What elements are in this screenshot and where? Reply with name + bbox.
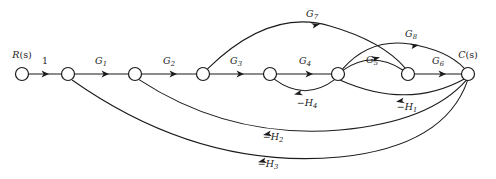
node-output-cs[interactable] (462, 68, 475, 81)
edge-label-h1: −H1 (397, 101, 418, 114)
edge-feedback-h3 (72, 80, 467, 163)
edge-forward-g6 (415, 71, 462, 78)
node-1[interactable] (62, 68, 75, 81)
edge-feedforward-g8 (343, 43, 465, 69)
edge-label-gain-1: 1 (42, 55, 48, 66)
edge-forward-g3 (210, 71, 264, 78)
edge-feedback-h2 (139, 80, 466, 136)
signal-flow-graph-canvas: R(s) C(s) 1 G1 G2 G3 G4 G5 G6 G7 G8 −H4 … (0, 0, 496, 179)
edge-label-g5: G5 (366, 54, 378, 67)
edge-label-g6: G6 (432, 55, 445, 68)
node-6[interactable] (402, 68, 415, 81)
edge-label-h4: −H4 (297, 97, 318, 110)
edge-forward-g1 (75, 71, 129, 78)
node-2[interactable] (129, 68, 142, 81)
edge-label-h2: −H2 (263, 131, 284, 144)
edge-label-h3: −H3 (258, 158, 279, 171)
edge-feedback-h4 (274, 79, 334, 95)
node-4[interactable] (264, 68, 277, 81)
label-layer: R(s) C(s) 1 G1 G2 G3 G4 G5 G6 G7 G8 −H4 … (11, 8, 478, 171)
signal-flow-graph-figure: R(s) C(s) 1 G1 G2 G3 G4 G5 G6 G7 G8 −H4 … (0, 0, 496, 179)
edge-forward-g2 (142, 71, 197, 78)
node-input-rs[interactable] (16, 68, 29, 81)
edge-forward-1 (29, 71, 62, 78)
edge-feedback-h1 (340, 79, 464, 103)
edge-label-g1: G1 (95, 55, 107, 68)
node-5[interactable] (332, 68, 345, 81)
edge-label-g8: G8 (405, 28, 418, 41)
edge-label-g3: G3 (230, 55, 242, 68)
edge-label-g7: G7 (306, 8, 319, 21)
node-3[interactable] (197, 68, 210, 81)
node-label-input: R(s) (11, 49, 31, 60)
node-label-output: C(s) (458, 49, 478, 60)
edge-forward-g4 (277, 71, 332, 78)
edge-label-g2: G2 (163, 55, 175, 68)
edge-layer (29, 22, 468, 163)
edge-label-g4: G4 (299, 55, 311, 68)
